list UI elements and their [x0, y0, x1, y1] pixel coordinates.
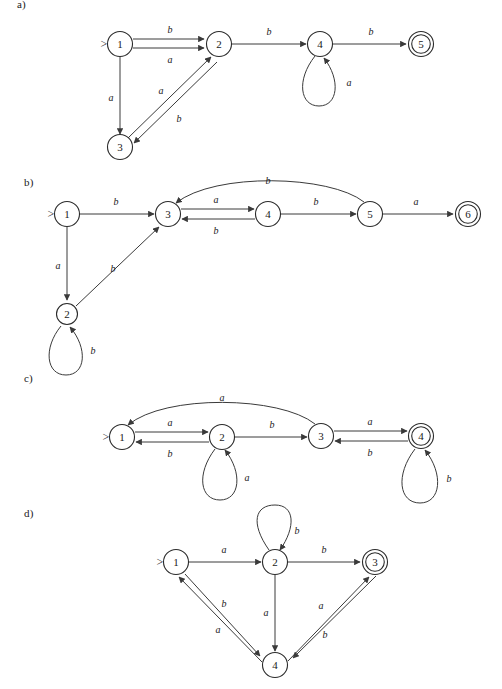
- state-node-d-2[interactable]: 2: [263, 550, 288, 575]
- automaton-diagram-d: > a b b a b a a b 1 2: [0, 0, 502, 689]
- start-marker-d: >: [157, 555, 164, 569]
- edge-d-4-3-a: [288, 577, 369, 661]
- state-label-d-2: 2: [272, 556, 278, 568]
- edge-label-d-2-2-b: b: [295, 525, 300, 536]
- edge-d-1-4-b: [185, 574, 260, 656]
- edge-label-d-1-2-a: a: [222, 544, 227, 555]
- state-node-d-1[interactable]: 1: [164, 550, 189, 575]
- edge-label-d-3-4-b: b: [323, 629, 328, 640]
- edge-label-d-4-1-a: a: [216, 624, 221, 635]
- edge-d-3-4-b: [293, 576, 376, 658]
- state-label-d-4: 4: [272, 659, 278, 671]
- figure-page: a) > b a a a b b a b: [0, 0, 502, 689]
- state-node-d-4[interactable]: 4: [263, 653, 288, 678]
- edge-label-d-2-4-a: a: [264, 607, 269, 618]
- state-label-d-3: 3: [372, 556, 378, 568]
- edge-d-2-2-b: [257, 505, 291, 550]
- state-label-d-1: 1: [173, 556, 179, 568]
- edge-label-d-1-4-b: b: [222, 598, 227, 609]
- state-node-d-3[interactable]: 3: [363, 550, 388, 575]
- edge-label-d-4-3-a: a: [319, 600, 324, 611]
- edge-label-d-2-3-b: b: [322, 544, 327, 555]
- edge-d-4-1-a: [179, 577, 262, 662]
